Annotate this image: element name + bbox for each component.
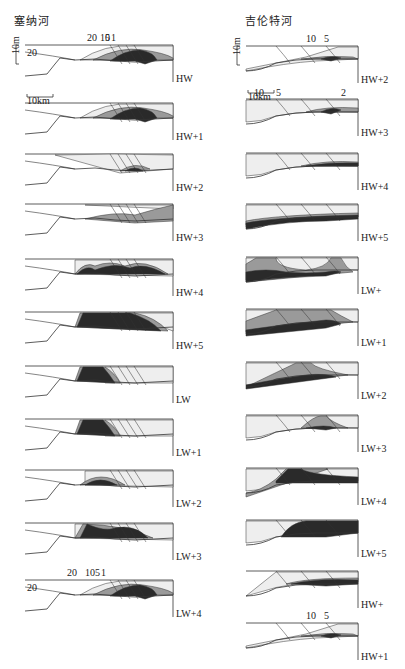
estuary-panel-lw-plus-3: LW+3 [246,412,398,462]
tide-stage-label: HW+ [361,599,384,610]
estuary-panel-hw-plus-4: HW+4 [246,150,398,200]
salinity-isoline [25,266,75,274]
vertical-scale-label: 10m [10,36,21,54]
tide-stage-label: LW+4 [361,496,386,507]
side-salinity-label: 20 [27,582,37,593]
isohaline-value-label: 5 [324,33,329,44]
estuary-panel-lw-plus-3: LW+3 [25,520,213,570]
estuary-panel-lw-plus-2: LW+2 [246,359,398,409]
tide-stage-label: HW+3 [176,232,203,243]
tide-stage-label: LW+ [361,285,382,296]
isohaline-value-label: 5 [95,567,100,578]
estuary-panel-lw-plus-4: LW+4 [246,465,398,515]
isohaline-value-label: 5 [276,87,281,98]
tide-stage-label: HW+2 [176,182,203,193]
vertical-scale-label: 10m [231,37,242,55]
estuary-panel-hw-plus-4: HW+4 [25,256,213,306]
estuary-panel-hw-plus-3: HW+3 [25,201,213,251]
salinity-isoline [25,211,75,219]
isohaline-value-label: 1 [101,567,106,578]
isohaline-value-label: 5 [105,32,110,43]
estuary-panel-hw-plus-5: HW+5 [246,201,398,251]
tide-stage-label: HW+3 [361,127,388,138]
salinity-isoline [25,110,75,118]
tide-stage-label: HW [176,73,193,84]
tide-stage-label: LW+4 [176,608,201,619]
tide-stage-label: LW+3 [176,551,201,562]
isohaline-value-label: 1 [111,32,116,43]
isohaline-value-label: 5 [324,610,329,621]
estuary-panel-hw: HW2010512010m [25,42,213,92]
tide-stage-label: LW+1 [176,447,201,458]
isohaline-line [276,46,290,63]
salinity-isoline [25,161,75,169]
estuary-panel-hw-plus-2: HW+2 [25,151,213,201]
estuary-panel-hw-plus-2: HW+210510m [246,43,398,93]
isohaline-value-label: 2 [341,87,346,98]
side-salinity-label: 20 [27,47,37,58]
isohaline-value-label: 20 [67,567,77,578]
estuary-panel-lw-plus-1: LW+1 [246,306,398,356]
tide-stage-label: HW+4 [361,181,388,192]
estuary-panel-lw-plus-4: LW+420105120 [25,577,213,627]
tide-stage-label: HW+5 [176,340,203,351]
tide-stage-label: LW+2 [176,498,201,509]
seine-column-title: 塞纳河 [14,12,50,28]
estuary-panel-lw-plus-: LW+ [246,254,398,304]
salinity-isoline [25,530,75,538]
horizontal-scale-label: 10km [27,95,50,106]
estuary-panel-hw-plus-5: HW+5 [25,309,213,359]
salinity-isoline [25,319,75,327]
tide-stage-label: HW+4 [176,287,203,298]
estuary-panel-lw-plus-2: LW+2 [25,467,213,517]
isohaline-value-label: 10 [85,567,95,578]
isohaline-value-label: 10 [306,33,316,44]
isohaline-value-label: 20 [87,32,97,43]
estuary-panel-lw-plus-1: LW+1 [25,416,213,466]
gironde-column-title: 吉伦特河 [245,12,293,28]
horizontal-scale-label: 10km [248,91,271,102]
estuary-panel-hw-plus-1: HW+1105 [246,620,398,669]
estuary-panel-hw-plus-3: HW+3105210km [246,96,398,146]
tide-stage-label: HW+1 [361,651,388,662]
tide-stage-label: HW+5 [361,232,388,243]
salinity-isoline [25,426,75,434]
salinity-isoline [25,373,75,381]
salinity-isoline [25,477,75,485]
tide-stage-label: LW [176,394,191,405]
tide-stage-label: LW+1 [361,337,386,348]
isohaline-line [276,623,290,640]
tide-stage-label: HW+1 [176,131,203,142]
tide-stage-label: HW+2 [361,74,388,85]
tide-stage-label: LW+5 [361,548,386,559]
estuary-panel-hw-plus-: HW+ [246,568,398,618]
tide-stage-label: LW+3 [361,443,386,454]
estuary-panel-lw-plus-5: LW+5 [246,517,398,567]
tide-stage-label: LW+2 [361,390,386,401]
estuary-panel-hw-plus-1: HW+110km [25,100,213,150]
estuary-panel-lw: LW [25,363,213,413]
isohaline-value-label: 10 [306,610,316,621]
